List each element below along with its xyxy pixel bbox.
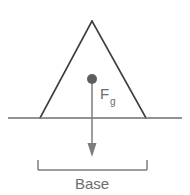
triangle-block [40,21,146,118]
diagram-canvas: F g Base [0,0,190,195]
force-label-symbol: F [100,85,109,102]
triangle-right-side [92,21,146,118]
force-label-subscript: g [110,96,116,107]
base-dimension-bracket [38,160,147,170]
base-dimension-label: Base [75,175,109,192]
triangle-left-side [40,21,92,118]
physics-diagram-figure: F g Base [0,0,190,195]
gravity-vector-arrowhead [88,143,97,157]
center-of-mass-dot [87,74,97,84]
